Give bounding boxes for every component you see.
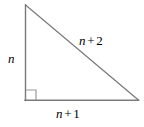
label-leg-vertical: n — [8, 52, 15, 65]
label-hypotenuse-variable: n — [79, 33, 86, 48]
label-leg-horizontal-operator: + — [63, 106, 74, 121]
label-hypotenuse-number: 2 — [96, 33, 103, 48]
label-hypotenuse-operator: + — [86, 33, 97, 48]
triangle-hypotenuse — [26, 5, 139, 100]
label-leg-vertical-variable: n — [8, 51, 15, 66]
label-leg-horizontal: n+1 — [56, 107, 80, 120]
label-leg-horizontal-variable: n — [56, 106, 63, 121]
triangle-figure: n n+2 n+1 — [0, 0, 144, 127]
label-hypotenuse: n+2 — [79, 34, 103, 47]
right-angle-marker-icon — [26, 90, 36, 100]
label-leg-horizontal-number: 1 — [73, 106, 80, 121]
